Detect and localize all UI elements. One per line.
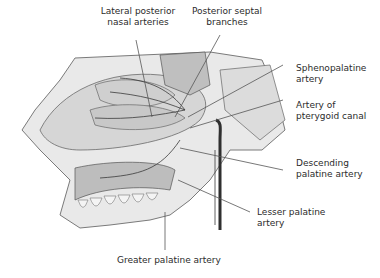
label-descending-palatine-artery: Descending palatine artery: [296, 158, 363, 180]
label-lateral-posterior-nasal-arteries: Lateral posterior nasal arteries: [96, 6, 180, 28]
label-artery-of-pterygoid-canal: Artery of pterygoid canal: [296, 100, 366, 122]
label-sphenopalatine-artery: Sphenopalatine artery: [296, 63, 366, 85]
label-greater-palatine-artery: Greater palatine artery: [117, 255, 221, 266]
label-lesser-palatine-artery: Lesser palatine artery: [257, 207, 325, 229]
nasal-anatomy-illustration: [0, 0, 380, 278]
label-posterior-septal-branches: Posterior septal branches: [188, 6, 266, 28]
